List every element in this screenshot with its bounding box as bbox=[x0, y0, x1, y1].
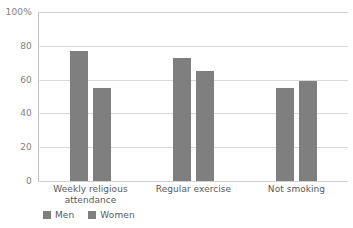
legend: Men Women bbox=[43, 210, 135, 220]
x-axis-category-labels: Weekly religious attendance Regular exer… bbox=[39, 184, 348, 206]
legend-item-women[interactable]: Women bbox=[88, 210, 134, 220]
bar-groups bbox=[39, 12, 348, 181]
x-axis-label-not-smoking: Not smoking bbox=[245, 184, 348, 206]
y-tick-label-40: 40 bbox=[20, 108, 38, 118]
x-axis-label-line-1: Not smoking bbox=[245, 184, 348, 195]
bar-group-not-smoking bbox=[245, 12, 348, 181]
x-axis-label-weekly-religious-attendance: Weekly religious attendance bbox=[39, 184, 142, 206]
x-axis-label-line-2: attendance bbox=[39, 195, 142, 206]
x-axis-label-line-1: Weekly religious bbox=[39, 184, 142, 195]
bar-women-regular-exercise[interactable] bbox=[196, 71, 214, 181]
bar-men-not-smoking[interactable] bbox=[276, 88, 294, 181]
bar-group-weekly-religious-attendance bbox=[39, 12, 142, 181]
y-tick-label-100: 100% bbox=[5, 7, 38, 17]
legend-swatch-women-icon bbox=[88, 211, 96, 219]
legend-item-men[interactable]: Men bbox=[43, 210, 74, 220]
bar-women-not-smoking[interactable] bbox=[299, 81, 317, 181]
y-tick-label-0: 0 bbox=[26, 176, 38, 186]
gridline-0: 0 bbox=[38, 181, 348, 182]
x-axis-label-regular-exercise: Regular exercise bbox=[142, 184, 245, 206]
bar-chart: 100% 80 60 40 20 0 bbox=[0, 0, 353, 228]
legend-label-women: Women bbox=[100, 210, 134, 220]
bar-group-regular-exercise bbox=[142, 12, 245, 181]
bar-men-regular-exercise[interactable] bbox=[173, 58, 191, 181]
bar-men-weekly-religious-attendance[interactable] bbox=[70, 51, 88, 181]
bar-women-weekly-religious-attendance[interactable] bbox=[93, 88, 111, 181]
x-axis-label-line-1: Regular exercise bbox=[142, 184, 245, 195]
y-tick-label-60: 60 bbox=[20, 75, 38, 85]
y-tick-label-80: 80 bbox=[20, 41, 38, 51]
legend-swatch-men-icon bbox=[43, 211, 51, 219]
legend-label-men: Men bbox=[55, 210, 74, 220]
y-tick-label-20: 20 bbox=[20, 142, 38, 152]
